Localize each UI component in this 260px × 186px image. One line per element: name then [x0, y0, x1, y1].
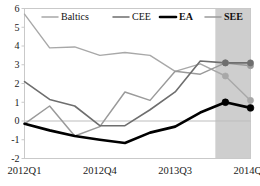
- y-tick-label: 5: [15, 22, 20, 33]
- x-tick-label: 2014Q2: [234, 165, 260, 176]
- y-tick-label: -1: [11, 134, 19, 145]
- y-tick-label: 2: [15, 78, 20, 89]
- y-tick-label: 3: [15, 59, 20, 70]
- legend-label-ea: EA: [179, 11, 194, 22]
- legend-label-baltics: Baltics: [61, 11, 89, 22]
- data-point-marker-baltics: [222, 73, 228, 79]
- chart-container: 6543210-1-2 BalticsCEEEASEE 2012Q12012Q4…: [0, 0, 260, 186]
- data-point-marker-ea: [222, 99, 229, 106]
- x-tick-label: 2013Q3: [158, 165, 192, 176]
- data-point-marker-cee: [247, 60, 253, 66]
- line-chart: 6543210-1-2 BalticsCEEEASEE 2012Q12012Q4…: [0, 0, 260, 186]
- y-tick-label: 0: [15, 115, 20, 126]
- legend-label-cee: CEE: [132, 11, 151, 22]
- y-tick-label: 6: [15, 3, 20, 14]
- y-tick-label: 4: [15, 40, 20, 51]
- data-point-marker-ea: [247, 104, 254, 111]
- y-tick-label: 1: [15, 97, 20, 108]
- data-point-marker-baltics: [247, 97, 253, 103]
- x-tick-label: 2012Q1: [8, 165, 42, 176]
- y-tick-label: -2: [11, 153, 19, 164]
- legend-label-see: SEE: [224, 11, 243, 22]
- x-tick-label: 2012Q4: [83, 165, 118, 176]
- data-point-marker-cee: [222, 60, 228, 66]
